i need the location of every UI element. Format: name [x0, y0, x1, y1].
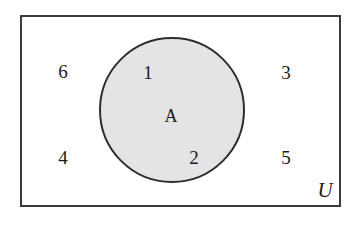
element-label-1: 1	[143, 63, 153, 82]
venn-diagram: 6 1 3 A 4 2 5 U	[0, 0, 357, 226]
set-a-label: A	[165, 107, 178, 125]
element-label-3: 3	[281, 63, 291, 82]
element-label-4: 4	[58, 148, 68, 167]
element-label-6: 6	[58, 62, 68, 81]
universal-set-label: U	[317, 180, 332, 201]
element-label-5: 5	[281, 148, 291, 167]
element-label-2: 2	[189, 148, 199, 167]
